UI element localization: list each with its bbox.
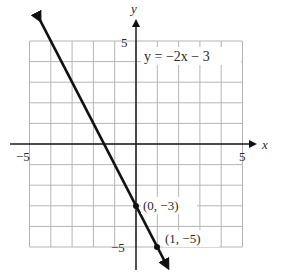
- x-tick-label-neg5: −5: [16, 149, 30, 164]
- point-0-neg3: [133, 203, 139, 209]
- point-label-1-neg5: (1, −5): [165, 231, 201, 246]
- y-axis-label: y: [129, 1, 137, 16]
- coordinate-graph: x y −5 5 5 −5 y = −2x − 3 (0, −3) (1, −5…: [0, 0, 292, 275]
- y-tick-label-5: 5: [121, 35, 128, 50]
- point-1-neg5: [154, 244, 160, 250]
- x-tick-label-5: 5: [239, 149, 246, 164]
- y-tick-label-neg5: −5: [111, 240, 125, 255]
- equation-label: y = −2x − 3: [144, 49, 210, 64]
- point-label-0-neg3: (0, −3): [143, 198, 179, 213]
- x-axis-label: x: [261, 137, 268, 152]
